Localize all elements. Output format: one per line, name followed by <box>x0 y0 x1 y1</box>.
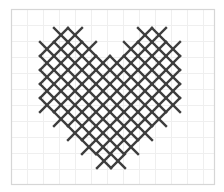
cross-stitch-heart-canvas <box>0 0 224 192</box>
